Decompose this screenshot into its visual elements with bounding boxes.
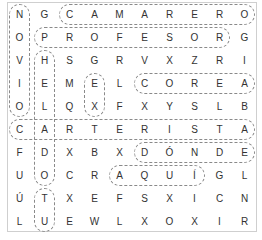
grid-cell[interactable]: R — [232, 210, 257, 233]
grid-cell[interactable]: I — [232, 49, 257, 72]
grid-cell[interactable]: G — [82, 49, 107, 72]
grid-cell[interactable]: Y — [157, 95, 182, 118]
grid-cell[interactable]: O — [157, 210, 182, 233]
grid-cell[interactable]: L — [107, 72, 132, 95]
found-word-highlight — [34, 50, 55, 186]
found-word-highlight — [109, 165, 205, 186]
grid-cell[interactable]: L — [232, 164, 257, 187]
grid-cell[interactable]: S — [182, 95, 207, 118]
grid-cell[interactable]: V — [132, 49, 157, 72]
grid-cell[interactable]: R — [207, 49, 232, 72]
grid-cell[interactable]: E — [57, 210, 82, 233]
grid-cell[interactable]: R — [107, 49, 132, 72]
found-word-highlight — [34, 27, 230, 48]
found-word-highlight — [9, 4, 30, 117]
grid-cell[interactable]: S — [57, 49, 82, 72]
grid-cell[interactable]: F — [107, 187, 132, 210]
grid-cell[interactable]: L — [207, 95, 232, 118]
found-word-highlight — [84, 73, 105, 117]
grid-cell[interactable]: B — [232, 95, 257, 118]
grid-cell[interactable]: F — [7, 141, 32, 164]
grid-cell[interactable]: Z — [182, 49, 207, 72]
grid-cell[interactable]: G — [207, 164, 232, 187]
found-word-highlight — [134, 73, 255, 94]
grid-cell[interactable]: X — [57, 187, 82, 210]
grid-cell[interactable]: U — [7, 164, 32, 187]
grid-cell[interactable]: X — [182, 210, 207, 233]
grid-cell[interactable]: X — [57, 141, 82, 164]
found-word-highlight — [134, 142, 255, 163]
grid-cell[interactable]: F — [107, 95, 132, 118]
grid-cell[interactable]: N — [232, 187, 257, 210]
grid-cell[interactable]: X — [132, 95, 157, 118]
grid-cell[interactable]: X — [157, 187, 182, 210]
grid-cell[interactable]: S — [132, 187, 157, 210]
grid-cell[interactable]: L — [7, 210, 32, 233]
grid-cell[interactable]: L — [107, 210, 132, 233]
grid-cell[interactable]: R — [82, 164, 107, 187]
grid-cell[interactable]: X — [107, 141, 132, 164]
grid-cell[interactable]: C — [57, 164, 82, 187]
grid-cell[interactable]: W — [82, 210, 107, 233]
grid-cell[interactable]: M — [57, 72, 82, 95]
grid-cell[interactable]: X — [157, 49, 182, 72]
grid-cell[interactable]: Ú — [7, 187, 32, 210]
grid-cell[interactable]: C — [207, 187, 232, 210]
found-word-highlight — [34, 188, 55, 232]
word-search-board: NGCAMAREROOPROFESORGVHSGRVXZRIIEMELCOREA… — [7, 2, 257, 232]
grid-cell[interactable]: I — [182, 187, 207, 210]
grid-cell[interactable]: E — [82, 187, 107, 210]
grid-cell[interactable]: G — [32, 3, 57, 26]
grid-cell[interactable]: Q — [57, 95, 82, 118]
found-word-highlight — [59, 4, 255, 25]
grid-cell[interactable]: I — [207, 210, 232, 233]
grid-cell[interactable]: B — [82, 141, 107, 164]
grid-cell[interactable]: X — [132, 210, 157, 233]
grid-cell[interactable]: G — [232, 26, 257, 49]
